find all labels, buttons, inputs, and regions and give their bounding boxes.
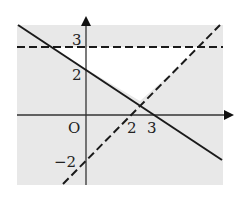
x-axis-arrow-icon [224, 110, 234, 120]
y-tick-3: 3 [72, 31, 82, 49]
coordinate-diagram: 3 2 O 2 3 −2 [0, 0, 248, 201]
x-tick-3: 3 [147, 119, 157, 137]
origin-label: O [68, 119, 80, 137]
y-axis-arrow-icon [81, 16, 91, 26]
y-tick-neg2: −2 [54, 153, 76, 171]
y-tick-2: 2 [72, 66, 82, 84]
x-tick-2: 2 [127, 119, 137, 137]
